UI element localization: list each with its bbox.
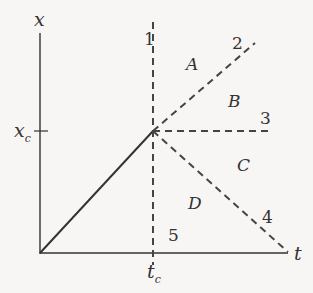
trajectory-line: [40, 131, 153, 253]
line-label-1: 1: [144, 31, 155, 48]
region-D: D: [188, 195, 202, 212]
tc-main: t: [147, 260, 155, 282]
region-C: C: [237, 157, 250, 174]
region-B: B: [228, 93, 241, 110]
t-axis-label: t: [294, 244, 302, 263]
diagram-lines: [0, 0, 313, 293]
tc-sub: c: [155, 273, 161, 286]
xc-main: x: [14, 119, 25, 141]
line-label-3: 3: [260, 110, 271, 127]
dashed-line-2: [153, 43, 255, 131]
spacetime-diagram: x t xc tc 1 2 3 4 5 A B C D: [0, 0, 313, 293]
line-label-5: 5: [168, 227, 179, 244]
line-label-2: 2: [232, 35, 243, 52]
region-A: A: [186, 56, 198, 73]
x-axis-label: x: [34, 10, 45, 29]
line-label-4: 4: [262, 209, 273, 226]
xc-sub: c: [25, 132, 31, 145]
xc-label: xc: [14, 121, 31, 144]
tc-label: tc: [147, 262, 161, 285]
